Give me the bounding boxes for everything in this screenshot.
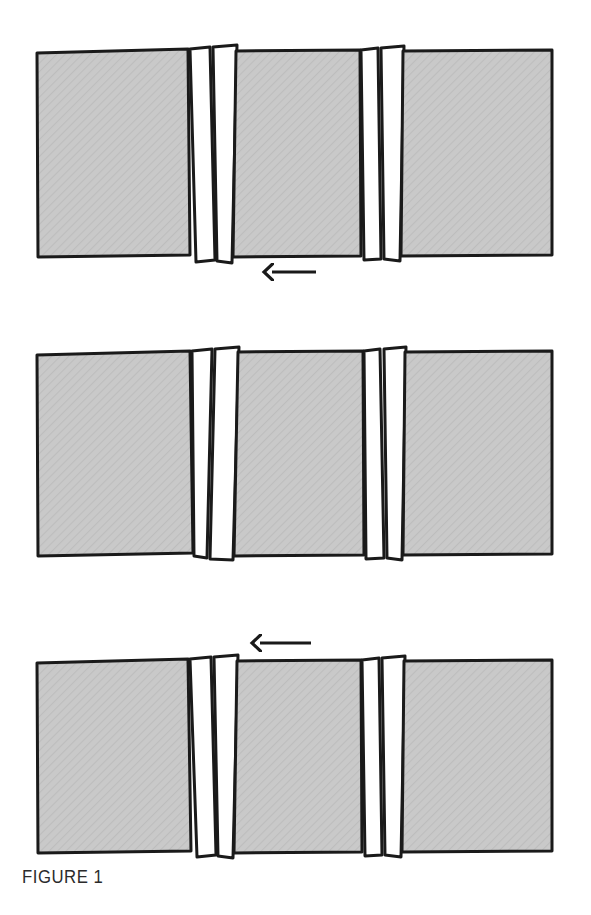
bottom-panel-right <box>402 660 552 852</box>
bottom-panel-center <box>234 660 362 853</box>
bottom-joint-right-strip-1 <box>362 658 382 856</box>
middle-joint-right-strip-1 <box>364 349 384 559</box>
middle-panel-right <box>403 351 552 555</box>
figure-drawing-canvas <box>0 0 591 915</box>
top-joint-right-strip-1 <box>361 48 381 260</box>
bottom-panel-left <box>37 659 191 853</box>
top-panel-right <box>401 50 552 256</box>
bottom-joint-left-strip-1 <box>190 657 216 857</box>
assembly-middle <box>37 347 552 560</box>
middle-joint-left-strip-1 <box>192 349 212 558</box>
top-panel-left <box>37 49 190 257</box>
middle-panel-center <box>234 351 364 556</box>
assembly-bottom <box>37 655 552 858</box>
assembly-top <box>37 45 552 263</box>
top-joint-left-strip-1 <box>190 47 215 262</box>
top-panel-center <box>233 50 361 257</box>
middle-panel-left <box>37 351 193 556</box>
figure-caption: FIGURE 1 <box>22 866 103 888</box>
figure-root: FIGURE 1 <box>0 0 591 915</box>
